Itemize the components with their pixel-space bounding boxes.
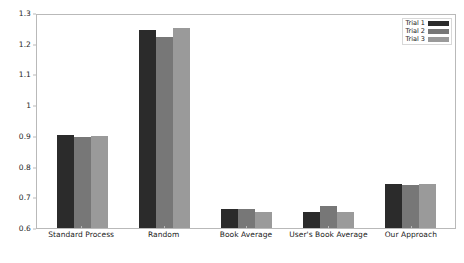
bar <box>156 37 173 228</box>
x-axis-category-label: Our Approach <box>370 231 452 251</box>
x-axis-tick-cell <box>287 226 369 229</box>
bar-group <box>41 15 123 228</box>
y-axis-tick-label: 0.8 <box>19 164 31 172</box>
x-axis-category-label: Book Average <box>205 231 287 251</box>
bar <box>419 184 436 228</box>
legend-color-swatch <box>428 29 449 34</box>
bar <box>57 135 74 228</box>
legend-color-swatch <box>428 21 449 26</box>
bar-group <box>369 15 451 228</box>
x-axis-category-label: Standard Process <box>40 231 122 251</box>
bar <box>173 28 190 228</box>
bar-group <box>287 15 369 228</box>
x-axis-tick-cell <box>40 226 122 229</box>
y-axis: 0.60.70.80.911.11.21.3 <box>0 14 36 229</box>
bars-container <box>37 15 455 228</box>
y-axis-tick-label: 1.1 <box>19 72 31 80</box>
legend-item: Trial 1 <box>406 20 449 27</box>
x-axis-tick-mark <box>411 226 412 229</box>
bar-group <box>123 15 205 228</box>
legend-color-swatch <box>428 37 449 42</box>
y-axis-tick-label: 0.9 <box>19 133 31 141</box>
x-axis-tick-cell <box>370 226 452 229</box>
legend-item: Trial 3 <box>406 36 449 43</box>
bar <box>402 185 419 228</box>
x-axis-tick-cell <box>122 226 204 229</box>
plot-area: Trial 1Trial 2Trial 3 <box>36 14 456 229</box>
y-axis-tick-label: 1.2 <box>19 41 31 49</box>
y-axis-tick-label: 0.7 <box>19 195 31 203</box>
chart-legend: Trial 1Trial 2Trial 3 <box>402 18 452 45</box>
y-axis-tick-label: 1 <box>26 102 31 110</box>
bar-group <box>205 15 287 228</box>
bar <box>74 137 91 228</box>
x-axis-ticks <box>36 226 456 229</box>
legend-item-label: Trial 3 <box>406 36 425 43</box>
y-axis-tick-label: 1.3 <box>19 10 31 18</box>
legend-item-label: Trial 1 <box>406 20 425 27</box>
x-axis-tick-mark <box>328 226 329 229</box>
x-axis-category-label: User's Book Average <box>287 231 369 251</box>
bar <box>320 206 337 228</box>
bar <box>91 136 108 228</box>
x-axis-labels: Standard ProcessRandomBook AverageUser's… <box>36 231 456 251</box>
y-axis-tick-label: 0.6 <box>19 225 31 233</box>
x-axis-tick-mark <box>246 226 247 229</box>
x-axis-tick-mark <box>81 226 82 229</box>
legend-item-label: Trial 2 <box>406 28 425 35</box>
legend-item: Trial 2 <box>406 28 449 35</box>
bar-chart: 0.60.70.80.911.11.21.3 Trial 1Trial 2Tri… <box>0 0 464 263</box>
bar <box>385 184 402 228</box>
x-axis-category-label: Random <box>122 231 204 251</box>
x-axis-tick-cell <box>205 226 287 229</box>
bar <box>139 30 156 228</box>
x-axis-tick-mark <box>164 226 165 229</box>
